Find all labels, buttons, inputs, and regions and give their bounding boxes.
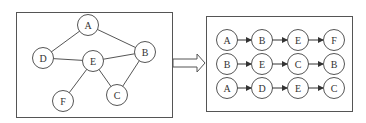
node-label: C — [295, 59, 302, 70]
sequence-node: A — [217, 30, 238, 51]
transform-arrow-icon — [173, 54, 205, 72]
sequence-node: E — [252, 54, 273, 75]
sequence-node: E — [288, 30, 309, 51]
node-label: E — [295, 35, 301, 46]
node-label: F — [331, 35, 337, 46]
graph-node-f: F — [53, 91, 74, 112]
walk-sequences: ABEFBECBADEC — [217, 30, 345, 99]
sequence-node: C — [324, 78, 345, 99]
node-label: A — [84, 20, 92, 31]
node-label: B — [224, 59, 231, 70]
sequence-node: B — [217, 54, 238, 75]
node-label: E — [259, 59, 265, 70]
node-label: A — [223, 83, 231, 94]
graph-node-a: A — [78, 15, 99, 36]
graph-node-c: C — [107, 85, 128, 106]
graph-node-d: D — [33, 48, 54, 69]
node-label: A — [223, 35, 231, 46]
node-label: E — [90, 56, 96, 67]
sequence-node: A — [217, 78, 238, 99]
graph-node-e: E — [83, 51, 104, 72]
node-label: B — [259, 35, 266, 46]
sequence-node: F — [324, 30, 345, 51]
sequence-node: E — [288, 78, 309, 99]
node-label: D — [39, 53, 46, 64]
sequence-node: C — [288, 54, 309, 75]
node-label: E — [295, 83, 301, 94]
sequence-node: B — [324, 54, 345, 75]
node-label: C — [114, 90, 121, 101]
node-label: C — [331, 83, 338, 94]
graph-node-b: B — [135, 42, 156, 63]
node-label: D — [258, 83, 265, 94]
node-label: B — [142, 47, 149, 58]
node-label: F — [60, 96, 66, 107]
sequence-node: D — [252, 78, 273, 99]
sequence-node: B — [252, 30, 273, 51]
diagram-canvas: ABDECF ABEFBECBADEC — [0, 0, 366, 123]
node-label: B — [331, 59, 338, 70]
